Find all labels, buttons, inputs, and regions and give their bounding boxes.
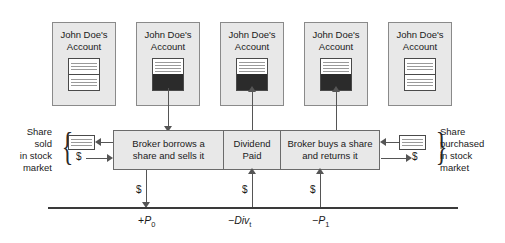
timeline-label-div: −Divt	[228, 214, 251, 229]
cashflow-line-p1	[320, 170, 321, 208]
connector-right-cert-to-broker	[384, 142, 399, 143]
share-document-icon-filled	[152, 58, 184, 91]
connector-account2-to-broker	[168, 88, 169, 130]
timeline-label-p1: −P1	[312, 214, 329, 229]
arrowhead-left-broker-buys	[380, 138, 386, 146]
account-box-1: John Doe's Account	[52, 22, 116, 106]
arrowhead-right-cash	[406, 154, 412, 162]
right-note-text: Share purchased in stock market	[440, 126, 484, 174]
connector-broker-to-left-cert	[99, 142, 113, 143]
share-document-icon	[68, 58, 100, 91]
timeline-label-p0: +P0	[138, 214, 155, 229]
cashflow-line-div	[252, 170, 253, 208]
process-box-broker-buys-label: Broker buys a share and returns it	[287, 138, 372, 162]
cashflow-dollar-p1: $	[310, 184, 316, 195]
diagram-canvas: John Doe's Account John Doe's Account	[0, 0, 505, 243]
arrowhead-up-account3	[248, 86, 256, 92]
right-share-certificate-icon	[399, 135, 426, 150]
left-note-text: Share sold in stock market	[14, 126, 52, 174]
share-document-icon	[404, 58, 436, 91]
account-box-4-label: John Doe's Account	[305, 29, 367, 52]
account-box-5: John Doe's Account	[388, 22, 452, 106]
process-box-broker-borrows[interactable]: Broker borrows a share and sells it	[113, 130, 224, 170]
cashflow-dollar-p0: $	[136, 184, 142, 195]
left-dollar-label: $	[76, 151, 82, 162]
arrowhead-up-div	[248, 168, 256, 174]
process-box-broker-buys[interactable]: Broker buys a share and returns it	[280, 130, 380, 170]
account-box-5-label: John Doe's Account	[389, 29, 451, 52]
connector-broker-to-right-cash	[381, 158, 409, 159]
account-box-2-label: John Doe's Account	[137, 29, 199, 52]
arrowhead-up-p1	[316, 168, 324, 174]
process-box-broker-borrows-label: Broker borrows a share and sells it	[132, 138, 204, 162]
left-share-certificate-icon	[68, 135, 95, 150]
account-box-1-label: John Doe's Account	[53, 29, 115, 52]
cashflow-line-p0	[146, 170, 147, 206]
right-dollar-label: $	[412, 151, 418, 162]
cashflow-dollar-div: $	[242, 184, 248, 195]
connector-dividend-to-account3	[252, 88, 253, 130]
arrowhead-left-cert	[95, 138, 101, 146]
arrowhead-right-broker	[107, 154, 113, 162]
process-box-dividend-paid-label: Dividend Paid	[234, 138, 271, 162]
arrowhead-up-account4	[332, 86, 340, 92]
account-box-3-label: John Doe's Account	[221, 29, 283, 52]
connector-left-cash-to-broker	[86, 158, 108, 159]
connector-broker-to-account4	[336, 88, 337, 130]
process-box-dividend-paid[interactable]: Dividend Paid	[223, 130, 281, 170]
timeline-axis	[48, 207, 458, 209]
